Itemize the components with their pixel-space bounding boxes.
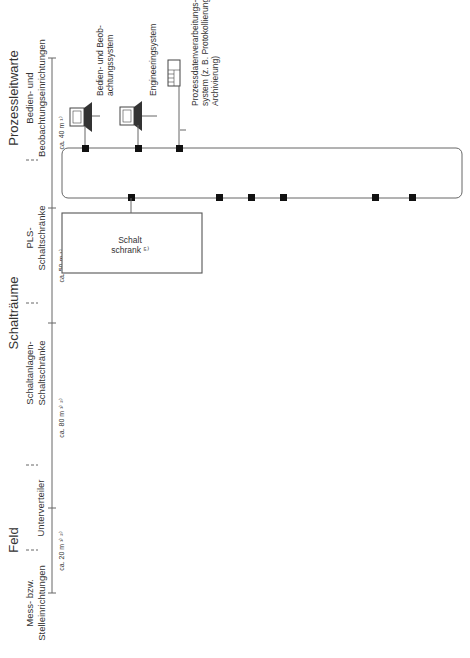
diagram-page: Feld Mess- bzw. Stelleinrichtungen Unter…: [0, 0, 470, 658]
diagram-overlay: [0, 0, 470, 658]
